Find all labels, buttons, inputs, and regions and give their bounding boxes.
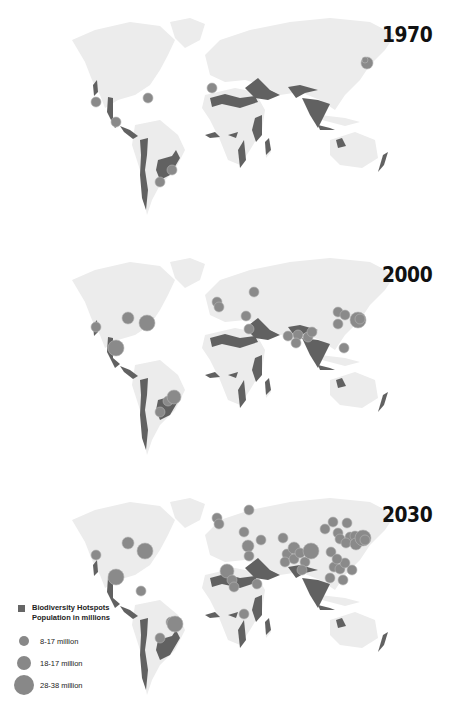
population-circle (122, 537, 134, 549)
population-circle (229, 582, 239, 592)
population-circle (325, 573, 335, 583)
population-circle (108, 340, 124, 356)
population-circle (155, 633, 165, 643)
map-panel-1970: 1970 (0, 0, 450, 230)
population-circle (91, 322, 101, 332)
population-circle (136, 586, 146, 596)
population-circle (108, 569, 124, 585)
legend-label-small: 8-17 million (40, 637, 78, 646)
population-circle (91, 550, 101, 560)
population-circle (239, 527, 249, 537)
population-circle (214, 519, 224, 529)
hotspot-region (318, 125, 335, 130)
population-circle (333, 319, 343, 329)
population-circle (239, 609, 249, 619)
population-circle (256, 535, 266, 545)
population-circle (241, 311, 251, 321)
population-circle (207, 83, 217, 93)
population-circle (340, 310, 350, 320)
year-label: 1970 (382, 22, 432, 47)
circle-large-icon (14, 675, 34, 695)
population-circle (242, 540, 254, 552)
population-circle (249, 287, 259, 297)
circle-medium-icon (17, 656, 31, 670)
legend-label-large: 28-38 million (40, 681, 83, 690)
hotspot-swatch-icon (18, 605, 25, 612)
population-circle (244, 551, 254, 561)
population-circle (291, 338, 301, 348)
legend-item-medium: 18-17 million (14, 653, 110, 673)
population-circle (91, 97, 101, 107)
population-circle (155, 407, 165, 417)
map-legend: Biodiversity Hotspots Population in mill… (14, 603, 110, 695)
legend-title-line2: Population in millions (32, 613, 110, 623)
population-circle (338, 575, 348, 585)
population-circle (244, 324, 254, 334)
population-circle (283, 331, 293, 341)
population-circle (297, 565, 307, 575)
population-circle (320, 524, 330, 534)
hotspot-region (378, 392, 388, 412)
population-circle (328, 517, 338, 527)
population-circle (122, 312, 134, 324)
hotspot-region (318, 605, 335, 610)
year-label: 2030 (382, 502, 432, 527)
population-circle (137, 543, 153, 559)
population-circle (252, 579, 262, 589)
population-circle (355, 314, 365, 324)
population-circle (244, 505, 254, 515)
population-circle (143, 93, 153, 103)
population-circle (214, 302, 224, 312)
circle-small-icon (19, 636, 29, 646)
population-circle (332, 554, 342, 564)
population-circle (155, 177, 165, 187)
year-label: 2000 (382, 262, 432, 287)
population-circle (278, 533, 288, 543)
legend-item-small: 8-17 million (14, 631, 110, 651)
map-panel-2000: 2000 (0, 240, 450, 470)
population-circle (347, 565, 357, 575)
population-circle (341, 538, 351, 548)
population-circle (339, 343, 349, 353)
population-circle (362, 57, 368, 63)
population-circle (342, 518, 352, 528)
legend-label-medium: 18-17 million (40, 659, 83, 668)
hotspot-region (318, 365, 335, 370)
population-circle (360, 535, 370, 545)
population-circle (280, 557, 290, 567)
population-circle (167, 390, 181, 404)
population-circle (167, 616, 183, 632)
population-circle (111, 117, 121, 127)
population-circle (139, 315, 155, 331)
legend-item-large: 28-38 million (14, 675, 110, 695)
population-circle (303, 543, 319, 559)
hotspot-region (378, 152, 388, 172)
legend-title: Biodiversity Hotspots Population in mill… (14, 603, 110, 623)
population-circle (167, 165, 177, 175)
legend-title-line1: Biodiversity Hotspots (32, 603, 110, 613)
population-circle (307, 327, 317, 337)
hotspot-region (378, 632, 388, 652)
